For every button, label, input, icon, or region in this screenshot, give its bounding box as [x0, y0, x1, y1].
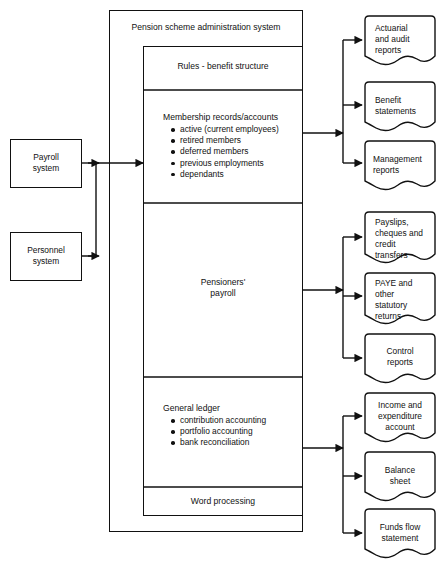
list-item: dependants [171, 169, 279, 180]
benefit-statements-label: Benefit statements [375, 95, 432, 117]
income-and-expenditure-account-doc: Income and expenditure account [362, 392, 438, 448]
funds-flow-statement-doc: Funds flow statement [362, 508, 438, 564]
rules-benefit-structure-section: Rules - benefit structure [143, 46, 303, 90]
benefit-statements-doc: Benefit statements [362, 81, 438, 137]
control-reports-doc: Control reports [362, 333, 438, 389]
list-item: deferred members [171, 146, 279, 157]
payroll-system-label: Payroll system [11, 152, 81, 174]
control-reports-label: Control reports [368, 346, 432, 368]
membership-records-accounts-bullets: active (current employees) retired membe… [171, 124, 279, 180]
paye-and-other-statutory-returns-label: PAYE and other statutory returns [375, 278, 434, 322]
diagram-canvas: Payroll system Personnel system Pension … [0, 0, 444, 570]
balance-sheet-doc: Balance sheet [362, 451, 438, 507]
paye-and-other-statutory-returns-doc: PAYE and other statutory returns [362, 272, 438, 330]
general-ledger-section: General ledger contribution accounting p… [143, 377, 303, 487]
payslips-cheques-and-credit-transfers-label: Payslips, cheques and credit transfers [375, 217, 434, 261]
management-reports-doc: Management reports [362, 140, 438, 196]
actuarial-and-audit-reports-label: Actuarial and audit reports [375, 23, 432, 56]
general-ledger-bullets: contribution accounting portfolio accoun… [171, 415, 266, 449]
funds-flow-statement-label: Funds flow statement [366, 522, 434, 544]
word-processing-section: Word processing [143, 487, 303, 516]
list-item: retired members [171, 135, 279, 146]
list-item: previous employments [171, 158, 279, 169]
management-reports-label: Management reports [373, 154, 434, 176]
membership-records-accounts-heading: Membership records/accounts [163, 112, 278, 123]
personnel-feed-line [82, 163, 96, 256]
word-processing-heading: Word processing [143, 496, 303, 507]
income-and-expenditure-account-label: Income and expenditure account [366, 400, 434, 433]
personnel-system-box: Personnel system [10, 232, 82, 281]
actuarial-and-audit-reports-doc: Actuarial and audit reports [362, 15, 438, 71]
membership-records-accounts-section: Membership records/accounts active (curr… [143, 90, 303, 203]
pensioners-payroll-section: Pensioners' payroll [143, 203, 303, 377]
payslips-cheques-and-credit-transfers-doc: Payslips, cheques and credit transfers [362, 211, 438, 269]
rules-benefit-structure-heading: Rules - benefit structure [143, 61, 303, 72]
payroll-system-box: Payroll system [10, 139, 82, 188]
personnel-system-label: Personnel system [11, 245, 81, 267]
general-ledger-heading: General ledger [163, 403, 220, 414]
list-item: active (current employees) [171, 124, 279, 135]
balance-sheet-label: Balance sheet [366, 465, 434, 487]
list-item: portfolio accounting [171, 426, 266, 437]
list-item: bank reconciliation [171, 437, 266, 448]
system-title: Pension scheme administration system [109, 22, 303, 33]
list-item: contribution accounting [171, 415, 266, 426]
pensioners-payroll-heading: Pensioners' payroll [143, 277, 303, 299]
